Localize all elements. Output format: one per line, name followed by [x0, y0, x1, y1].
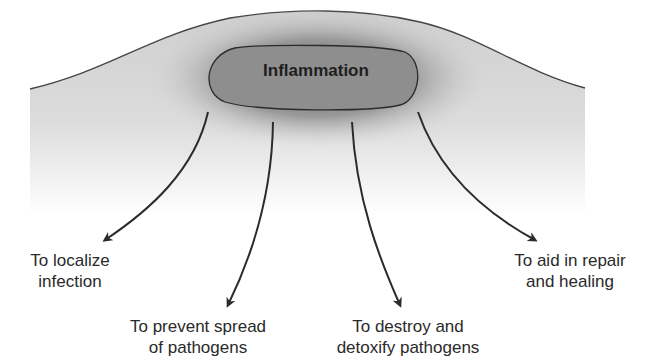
center-label: Inflammation: [210, 61, 422, 81]
outcome-line2: detoxify pathogens: [318, 337, 498, 358]
diagram-canvas: [0, 0, 652, 363]
outcome-line1: To prevent spread: [108, 316, 288, 337]
outcome-line2: infection: [5, 271, 135, 292]
outcome-line1: To aid in repair: [495, 250, 645, 271]
outcome-destroy: To destroy and detoxify pathogens: [318, 316, 498, 358]
outcome-line1: To localize: [5, 250, 135, 271]
outcome-line2: of pathogens: [108, 337, 288, 358]
outcome-prevent-spread: To prevent spread of pathogens: [108, 316, 288, 358]
outcome-line1: To destroy and: [318, 316, 498, 337]
outcome-line2: and healing: [495, 271, 645, 292]
outcome-localize: To localize infection: [5, 250, 135, 292]
outcome-repair: To aid in repair and healing: [495, 250, 645, 292]
